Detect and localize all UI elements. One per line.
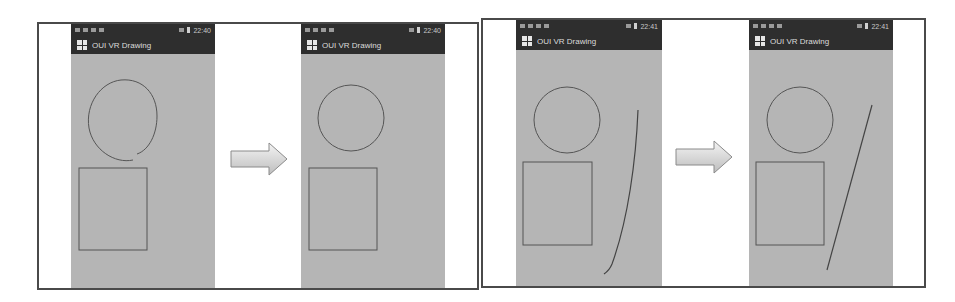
volume-icon: [329, 28, 334, 32]
battery-icon: [417, 27, 420, 33]
app-bar: OUI VR Drawing: [71, 36, 215, 54]
curved-stroke: [604, 110, 638, 274]
circle-stroke: [534, 87, 600, 153]
right-arrow-icon: [674, 140, 734, 174]
status-time: 22:40: [193, 27, 211, 34]
phone-screen-before: 22:40 OUI VR Drawing: [71, 24, 215, 288]
volume-icon: [99, 28, 104, 32]
status-bar: 22:41: [749, 20, 893, 32]
notification-icon: [305, 28, 310, 32]
notification-icon: [75, 28, 80, 32]
app-title: OUI VR Drawing: [322, 41, 381, 50]
notification-icon: [753, 24, 758, 28]
volume-icon: [777, 24, 782, 28]
rectangle-stroke: [756, 162, 824, 245]
signal-icon: [179, 28, 184, 32]
notification-icon: [520, 24, 525, 28]
drawing-canvas[interactable]: [516, 50, 662, 286]
app-logo-icon: [522, 36, 532, 46]
app-title: OUI VR Drawing: [770, 37, 829, 46]
rectangle-stroke: [79, 168, 147, 250]
battery-icon: [187, 27, 190, 33]
status-time: 22:41: [640, 23, 658, 30]
app-title: OUI VR Drawing: [92, 41, 151, 50]
phone-icon: [536, 24, 541, 28]
signal-icon: [626, 24, 631, 28]
phone-icon: [769, 24, 774, 28]
notification-icon: [761, 24, 766, 28]
notification-icon: [313, 28, 318, 32]
app-bar: OUI VR Drawing: [516, 32, 662, 50]
battery-icon: [634, 23, 637, 29]
volume-icon: [544, 24, 549, 28]
signal-icon: [409, 28, 414, 32]
signal-icon: [857, 24, 862, 28]
straight-line-stroke: [827, 105, 872, 270]
notification-icon: [83, 28, 88, 32]
comparison-frame-right: 22:41 OUI VR Drawing 22:41 OUI VR Drawin…: [481, 18, 926, 288]
phone-icon: [321, 28, 326, 32]
status-bar: 22:40: [71, 24, 215, 36]
app-bar: OUI VR Drawing: [749, 32, 893, 50]
right-arrow-icon: [229, 142, 289, 176]
battery-icon: [865, 23, 868, 29]
rough-circle-stroke: [88, 80, 157, 161]
phone-screen-after: 22:41 OUI VR Drawing: [749, 20, 893, 286]
app-logo-icon: [307, 40, 317, 50]
phone-screen-before: 22:41 OUI VR Drawing: [516, 20, 662, 286]
circle-stroke: [767, 87, 833, 153]
status-time: 22:40: [423, 27, 441, 34]
app-bar: OUI VR Drawing: [301, 36, 445, 54]
rectangle-stroke: [523, 162, 592, 245]
drawing-canvas[interactable]: [71, 54, 215, 288]
comparison-frame-left: 22:40 OUI VR Drawing 22:40 OUI VR Drawin…: [37, 22, 479, 290]
drawing-canvas[interactable]: [749, 50, 893, 286]
phone-screen-after: 22:40 OUI VR Drawing: [301, 24, 445, 288]
notification-icon: [528, 24, 533, 28]
drawing-canvas[interactable]: [301, 54, 445, 288]
app-logo-icon: [755, 36, 765, 46]
rectangle-stroke: [309, 168, 377, 250]
status-bar: 22:41: [516, 20, 662, 32]
app-logo-icon: [77, 40, 87, 50]
app-title: OUI VR Drawing: [537, 37, 596, 46]
phone-icon: [91, 28, 96, 32]
status-bar: 22:40: [301, 24, 445, 36]
circle-stroke: [318, 85, 384, 151]
status-time: 22:41: [871, 23, 889, 30]
